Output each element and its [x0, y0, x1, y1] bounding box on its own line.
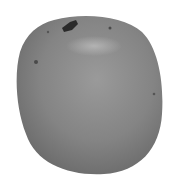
fruit-image: [14, 14, 164, 176]
cropped-top-marks: [0, 0, 178, 4]
